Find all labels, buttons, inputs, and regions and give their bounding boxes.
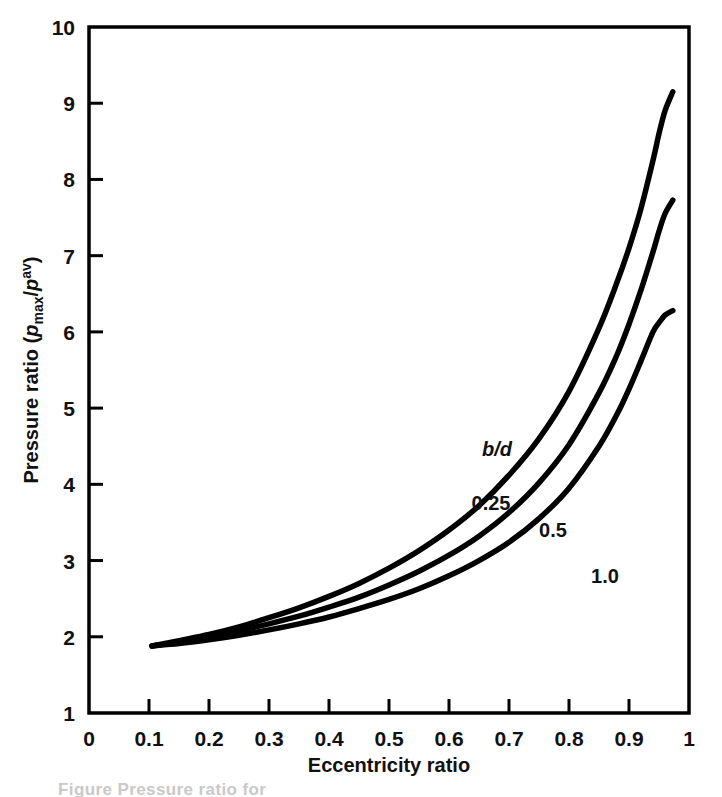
y-tick-label: 2 <box>63 626 75 649</box>
curve-label-05: 0.5 <box>539 519 567 541</box>
x-tick-label: 0.2 <box>194 727 223 750</box>
x-tick-label: 0.9 <box>614 727 643 750</box>
curve-label-10: 1.0 <box>591 565 619 587</box>
y-axis-title-prefix: Pressure ratio ( <box>20 336 42 483</box>
y-tick-label: 4 <box>63 473 75 496</box>
y-tick-label: 7 <box>63 245 75 268</box>
x-tick-label: 0.4 <box>314 727 344 750</box>
x-tick-label: 0.7 <box>494 727 523 750</box>
plot-frame <box>89 27 689 713</box>
y-axis-tick-labels: 12345678910 <box>52 16 76 725</box>
y-axis-title-subscript: max <box>30 296 46 324</box>
x-axis-title: Eccentricity ratio <box>308 754 470 776</box>
x-axis-tick-labels: 00.10.20.30.40.50.60.70.80.91 <box>83 727 695 750</box>
figure-root: 12345678910 00.10.20.30.40.50.60.70.80.9… <box>0 0 722 797</box>
x-tick-label: 0.1 <box>134 727 164 750</box>
pressure-ratio-chart: 12345678910 00.10.20.30.40.50.60.70.80.9… <box>0 0 722 797</box>
x-tick-label: 0.8 <box>554 727 584 750</box>
legend-title-bd: b/d <box>482 438 513 460</box>
y-tick-label: 6 <box>63 321 75 344</box>
y-axis-title-p1: p <box>20 325 42 338</box>
y-tick-label: 9 <box>63 92 75 115</box>
x-tick-label: 0.6 <box>434 727 463 750</box>
y-tick-label: 5 <box>63 397 75 420</box>
x-tick-label: 0.5 <box>374 727 404 750</box>
y-tick-label: 8 <box>63 168 75 191</box>
figure-caption-partial: Figure Pressure ratio for <box>0 775 722 797</box>
x-tick-label: 0.3 <box>254 727 283 750</box>
x-tick-label: 1 <box>683 727 695 750</box>
y-axis-title-p2: p <box>20 279 42 292</box>
y-tick-label: 10 <box>52 16 75 39</box>
x-tick-label: 0 <box>83 727 95 750</box>
y-axis-title-superscript: av <box>18 263 34 279</box>
y-tick-label: 3 <box>63 550 75 573</box>
y-axis-title: Pressure ratio (pmax/pav) <box>18 256 46 483</box>
curve-label-025: 0.25 <box>472 492 511 514</box>
y-axis-title-suffix: ) <box>20 256 42 263</box>
y-tick-label: 1 <box>63 702 75 725</box>
